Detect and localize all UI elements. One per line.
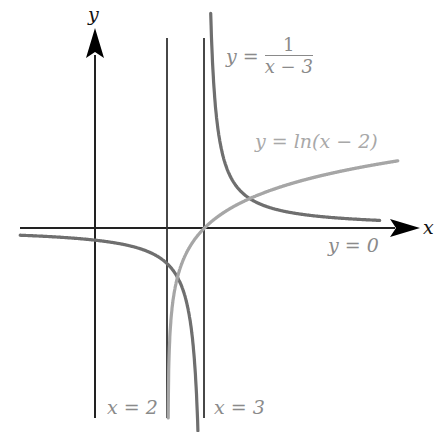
asymptote-y0-label: y = 0 bbox=[328, 236, 379, 255]
y-axis-arrow-icon bbox=[86, 28, 104, 58]
reciprocal-equation-lhs: y = bbox=[226, 45, 259, 67]
y-axis-label: y bbox=[88, 5, 99, 24]
log-curve bbox=[168, 161, 398, 418]
fraction-denominator: x − 3 bbox=[265, 56, 313, 76]
fraction-numerator: 1 bbox=[265, 36, 313, 56]
reciprocal-fraction: 1 x − 3 bbox=[265, 36, 313, 76]
asymptote-x3-label: x = 3 bbox=[214, 398, 265, 417]
log-equation-label: y = ln(x − 2) bbox=[255, 132, 378, 151]
asymptote-x2-label: x = 2 bbox=[107, 398, 158, 417]
x-axis-label: x bbox=[423, 218, 434, 237]
reciprocal-equation-label: y = 1 x − 3 bbox=[226, 36, 313, 76]
